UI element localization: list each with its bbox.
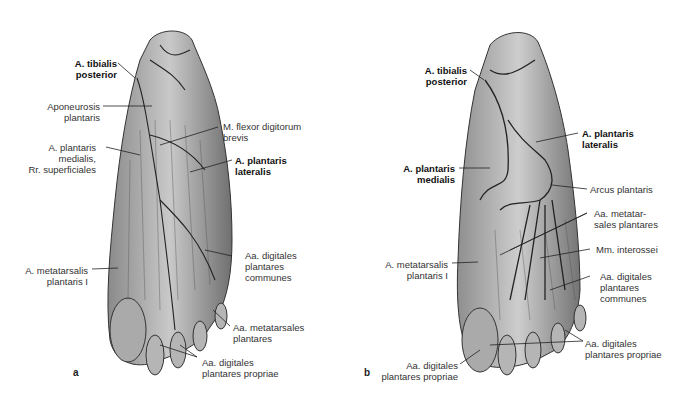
label-line: plantaris I	[380, 270, 448, 281]
label-metatarsalis-plantaris-i-b: A. metatarsalis plantaris I	[380, 259, 448, 281]
label-line: plantares	[245, 261, 297, 272]
label-plantaris-lateralis-b: A. plantaris lateralis	[582, 128, 634, 150]
label-line: Mm. interossei	[596, 244, 658, 255]
label-plantaris-medialis: A. plantaris medialis, Rr. superficiales	[10, 142, 96, 175]
label-line: plantaris	[40, 112, 100, 123]
label-digitales-propriae-b-right: Aa. digitales plantares propriae	[585, 338, 662, 360]
label-line: posterior	[72, 69, 117, 80]
label-line: plantares	[600, 282, 652, 293]
label-line: Aa. digitales	[380, 360, 458, 371]
label-digitales-propriae-b-left: Aa. digitales plantares propriae	[380, 360, 458, 382]
panel-a: A. tibialis posterior Aponeurosis planta…	[0, 0, 340, 394]
label-metatarsalis-plantaris-i: A. metatarsalis plantaris I	[20, 265, 88, 287]
label-flexor-digitorum-brevis: M. flexor digitorum brevis	[223, 121, 301, 143]
label-line: posterior	[422, 76, 467, 87]
label-digitales-propriae: Aa. digitales plantares propriae	[202, 357, 279, 379]
label-line: Aa. digitales	[585, 338, 662, 349]
label-line: Aponeurosis	[40, 101, 100, 112]
label-line: A. tibialis	[72, 58, 117, 69]
label-line: brevis	[223, 132, 301, 143]
label-metatarsales-plantares-b: Aa. metatar- sales plantares	[594, 208, 658, 230]
panel-b: A. tibialis posterior A. plantaris later…	[340, 0, 683, 394]
label-line: plantaris I	[20, 276, 88, 287]
label-line: Aa. digitales	[202, 357, 279, 368]
label-line: A. metatarsalis	[20, 265, 88, 276]
label-line: A. metatarsalis	[380, 259, 448, 270]
label-line: M. flexor digitorum	[223, 121, 301, 132]
label-line: communes	[600, 293, 652, 304]
panel-letter-b: b	[364, 367, 370, 378]
label-line: Arcus plantaris	[590, 184, 653, 195]
label-line: plantares propriae	[585, 349, 662, 360]
label-line: Aa. metatar-	[594, 208, 658, 219]
label-mm-interossei: Mm. interossei	[596, 244, 658, 255]
label-line: A. tibialis	[422, 65, 467, 76]
label-digitales-communes-b: Aa. digitales plantares communes	[600, 271, 652, 304]
label-plantaris-medialis-b: A. plantaris medialis	[395, 163, 455, 185]
label-line: A. plantaris	[582, 128, 634, 139]
label-line: Rr. superficiales	[10, 164, 96, 175]
panel-letter-a: a	[73, 367, 79, 378]
label-digitales-communes: Aa. digitales plantares communes	[245, 250, 297, 283]
label-line: lateralis	[582, 139, 634, 150]
label-line: plantares propriae	[202, 368, 279, 379]
label-metatarsales-plantares: Aa. metatarsales plantares	[233, 322, 304, 344]
label-line: sales plantares	[594, 219, 658, 230]
label-line: communes	[245, 272, 297, 283]
label-arcus-plantaris: Arcus plantaris	[590, 184, 653, 195]
label-line: medialis	[395, 174, 455, 185]
label-line: A. plantaris	[395, 163, 455, 174]
label-line: Aa. metatarsales	[233, 322, 304, 333]
label-line: lateralis	[235, 166, 287, 177]
label-line: Aa. digitales	[600, 271, 652, 282]
label-aponeurosis-plantaris: Aponeurosis plantaris	[40, 101, 100, 123]
label-plantaris-lateralis: A. plantaris lateralis	[235, 155, 287, 177]
label-line: Aa. digitales	[245, 250, 297, 261]
label-line: plantares	[233, 333, 304, 344]
label-tibialis-posterior-b: A. tibialis posterior	[422, 65, 467, 87]
label-line: plantares propriae	[380, 371, 458, 382]
foot-illustration-b	[340, 0, 683, 394]
label-tibialis-posterior: A. tibialis posterior	[72, 58, 117, 80]
label-line: medialis,	[10, 153, 96, 164]
label-line: A. plantaris	[235, 155, 287, 166]
label-line: A. plantaris	[10, 142, 96, 153]
